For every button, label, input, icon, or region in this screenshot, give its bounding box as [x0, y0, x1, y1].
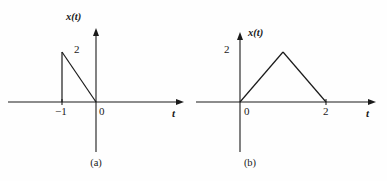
- figure-b-y-axis-label: x(t): [248, 28, 263, 39]
- figure-b-t-axis: [196, 99, 376, 105]
- figure-b-signal-trace: [240, 52, 326, 102]
- figure-a-x-axis: [93, 28, 99, 152]
- figure-page: x(t) 2 −1 0 t (a): [0, 0, 387, 181]
- figure-b-tick-label-zero: 0: [244, 106, 250, 117]
- figure-a-plot: [0, 0, 196, 181]
- figure-a-amplitude-label: 2: [74, 44, 80, 55]
- figure-a-caption: (a): [74, 158, 118, 169]
- figure-b-x-axis-label: t: [366, 108, 369, 119]
- figure-a-tick-label-minus-one: −1: [55, 106, 67, 117]
- figure-b-x-axis: [237, 32, 243, 152]
- figure-b-plot: [196, 0, 387, 181]
- figure-b-caption: (b): [228, 158, 272, 169]
- figure-a-x-axis-label: t: [172, 108, 175, 119]
- figure-b-tick-label-two: 2: [323, 106, 329, 117]
- figure-a: x(t) 2 −1 0 t (a): [0, 0, 196, 181]
- figure-a-tick-label-zero: 0: [99, 106, 105, 117]
- figure-a-y-axis-label: x(t): [66, 12, 81, 23]
- figure-b: x(t) 2 0 2 t (b): [196, 0, 387, 181]
- figure-b-amplitude-label: 2: [224, 44, 230, 55]
- figure-a-signal-trace: [62, 52, 96, 102]
